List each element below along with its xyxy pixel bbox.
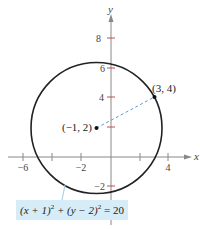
x-tick-label-neg2: −2 (76, 162, 87, 173)
coordinate-plane: 8 6 4 −2 −6 −2 4 x y (−1, 2) (3, 4) (0, 0, 200, 229)
circle-point-label: (3, 4) (152, 82, 176, 95)
equation-label-box: (x + 1)2 + (y − 2)2 = 20 (16, 200, 128, 220)
y-tick-label-4: 4 (99, 92, 104, 103)
x-axis-label: x (193, 150, 199, 162)
eq-part2: + (y − 2) (54, 204, 98, 216)
y-tick-label-neg2: −2 (94, 181, 105, 192)
y-axis-label: y (107, 3, 113, 15)
circle-point (153, 95, 157, 99)
equation-text: (x + 1)2 + (y − 2)2 = 20 (20, 203, 124, 216)
y-tick-label-8: 8 (96, 33, 101, 44)
eq-part1: (x + 1) (20, 204, 51, 216)
center-point (95, 126, 99, 130)
equation-leader-line (62, 185, 65, 200)
radius-segment (97, 97, 155, 128)
eq-part3: = 20 (101, 204, 124, 216)
x-axis-arrow-icon (184, 155, 192, 160)
x-tick-label-4: 4 (166, 162, 171, 173)
y-tick-label-6: 6 (100, 63, 105, 74)
x-tick-label-neg6: −6 (18, 162, 29, 173)
center-point-label: (−1, 2) (62, 121, 92, 134)
y-axis-arrow-icon (109, 14, 114, 22)
